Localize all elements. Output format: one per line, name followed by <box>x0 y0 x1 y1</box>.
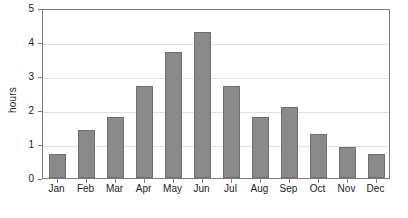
x-tick-mark <box>231 179 232 183</box>
x-tick-label: Oct <box>303 183 332 195</box>
bar <box>136 86 153 178</box>
x-tick-mark <box>86 179 87 183</box>
bar <box>49 154 66 178</box>
x-tick-mark <box>376 179 377 183</box>
bar <box>223 86 240 178</box>
x-tick-label: Dec <box>361 183 390 195</box>
x-tick-label: Jan <box>42 183 71 195</box>
x-tick-label: Apr <box>129 183 158 195</box>
x-tick-label: Feb <box>71 183 100 195</box>
x-tick-mark <box>260 179 261 183</box>
bar <box>368 154 385 178</box>
x-axis-labels: JanFebMarAprMayJunJulAugSepOctNovDec <box>42 183 390 199</box>
bar <box>281 107 298 178</box>
x-tick-mark <box>318 179 319 183</box>
bar <box>310 134 327 178</box>
bar <box>339 147 356 178</box>
x-tick-label: Jul <box>216 183 245 195</box>
x-tick-mark <box>57 179 58 183</box>
y-tick-label: 5 <box>0 4 34 14</box>
x-tick-label: Aug <box>245 183 274 195</box>
y-axis-title: hours <box>7 15 23 185</box>
y-tick-mark <box>38 179 42 180</box>
x-tick-mark <box>173 179 174 183</box>
x-tick-mark <box>289 179 290 183</box>
x-tick-label: Jun <box>187 183 216 195</box>
x-tick-label: Sep <box>274 183 303 195</box>
x-tick-mark <box>347 179 348 183</box>
bars-group <box>43 10 389 178</box>
bar <box>165 52 182 178</box>
x-tick-label: Nov <box>332 183 361 195</box>
x-tick-mark <box>202 179 203 183</box>
plot-area <box>42 9 390 179</box>
x-tick-label: May <box>158 183 187 195</box>
bar <box>107 117 124 178</box>
x-tick-mark <box>115 179 116 183</box>
x-tick-label: Mar <box>100 183 129 195</box>
bar-chart-figure: hours 012345 JanFebMarAprMayJunJulAugSep… <box>0 0 408 218</box>
bar <box>194 32 211 178</box>
x-tick-mark <box>144 179 145 183</box>
bar <box>252 117 269 178</box>
bar <box>78 130 95 178</box>
